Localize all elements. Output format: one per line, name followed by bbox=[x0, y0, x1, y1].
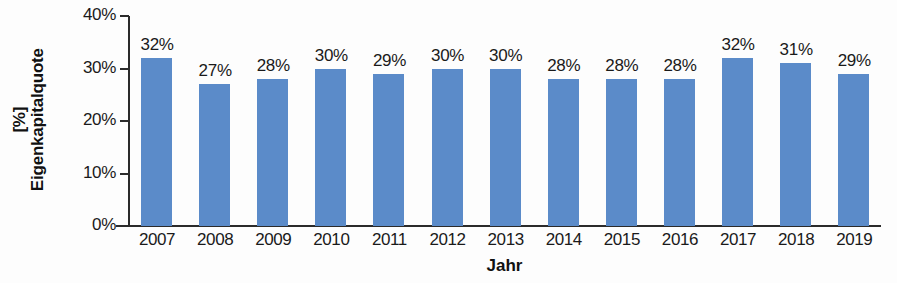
y-tick-label: 0% bbox=[58, 215, 116, 235]
plot-area: 32%27%28%30%29%30%30%28%28%28%32%31%29% bbox=[128, 16, 881, 226]
bar-slot: 29% bbox=[360, 16, 418, 226]
y-tick-mark bbox=[120, 225, 129, 227]
bar-value-label: 30% bbox=[489, 46, 522, 66]
bar-chart-eigenkapitalquote: Eigenkapitalquote [%] 0%10%20%30%40% 32%… bbox=[0, 0, 897, 283]
x-tick-label: 2018 bbox=[767, 230, 825, 250]
x-tick-label: 2008 bbox=[186, 230, 244, 250]
bar[interactable] bbox=[490, 69, 521, 227]
bar-value-label: 29% bbox=[838, 51, 871, 71]
y-tick-label: 30% bbox=[58, 58, 116, 78]
bar[interactable] bbox=[838, 74, 869, 226]
bar[interactable] bbox=[432, 69, 463, 227]
bar-value-label: 30% bbox=[431, 46, 464, 66]
bar-slot: 32% bbox=[709, 16, 767, 226]
bar[interactable] bbox=[548, 79, 579, 226]
bar-value-label: 28% bbox=[547, 56, 580, 76]
x-tick-label: 2013 bbox=[477, 230, 535, 250]
bar[interactable] bbox=[664, 79, 695, 226]
x-tick-labels: 2007200820092010201120122013201420152016… bbox=[128, 230, 881, 254]
bar[interactable] bbox=[373, 74, 404, 226]
bar-slot: 27% bbox=[186, 16, 244, 226]
bar-value-label: 32% bbox=[721, 35, 754, 55]
bar[interactable] bbox=[199, 84, 230, 226]
y-tick-label: 40% bbox=[58, 5, 116, 25]
x-tick-label: 2014 bbox=[535, 230, 593, 250]
bar-value-label: 30% bbox=[315, 46, 348, 66]
y-axis-title-line2: [%] bbox=[10, 107, 28, 133]
y-tick-labels: 0%10%20%30%40% bbox=[56, 0, 116, 283]
bar-value-label: 28% bbox=[257, 56, 290, 76]
y-tick-mark bbox=[120, 120, 129, 122]
x-tick-label: 2007 bbox=[128, 230, 186, 250]
x-tick-label: 2017 bbox=[709, 230, 767, 250]
bar[interactable] bbox=[141, 58, 172, 226]
bar-slot: 30% bbox=[477, 16, 535, 226]
x-tick-label: 2019 bbox=[825, 230, 883, 250]
bar-slot: 28% bbox=[651, 16, 709, 226]
x-tick-label: 2011 bbox=[360, 230, 418, 250]
bar-slot: 32% bbox=[128, 16, 186, 226]
bar[interactable] bbox=[606, 79, 637, 226]
y-tick-label: 10% bbox=[58, 163, 116, 183]
x-tick-label: 2009 bbox=[244, 230, 302, 250]
y-axis-title: Eigenkapitalquote [%] bbox=[0, 0, 56, 240]
bar[interactable] bbox=[315, 69, 346, 227]
x-axis-title: Jahr bbox=[128, 256, 881, 276]
bar-slot: 30% bbox=[419, 16, 477, 226]
bar-value-label: 29% bbox=[373, 51, 406, 71]
bar[interactable] bbox=[257, 79, 288, 226]
bar[interactable] bbox=[780, 63, 811, 226]
bar-slot: 30% bbox=[302, 16, 360, 226]
bar-value-label: 31% bbox=[780, 40, 813, 60]
bar-value-label: 28% bbox=[605, 56, 638, 76]
x-tick-label: 2010 bbox=[302, 230, 360, 250]
bar-slot: 28% bbox=[244, 16, 302, 226]
bar-slot: 29% bbox=[825, 16, 883, 226]
bar-slot: 28% bbox=[593, 16, 651, 226]
bar[interactable] bbox=[722, 58, 753, 226]
bar-value-label: 27% bbox=[199, 61, 232, 81]
x-tick-label: 2016 bbox=[651, 230, 709, 250]
y-tick-mark bbox=[120, 15, 129, 17]
y-tick-mark bbox=[120, 173, 129, 175]
y-axis-title-line1: Eigenkapitalquote bbox=[28, 48, 46, 191]
bar-value-label: 32% bbox=[140, 35, 173, 55]
bar-slot: 28% bbox=[535, 16, 593, 226]
bar-value-label: 28% bbox=[663, 56, 696, 76]
y-tick-label: 20% bbox=[58, 110, 116, 130]
y-tick-mark bbox=[120, 68, 129, 70]
x-tick-label: 2015 bbox=[593, 230, 651, 250]
bar-slot: 31% bbox=[767, 16, 825, 226]
x-tick-label: 2012 bbox=[419, 230, 477, 250]
